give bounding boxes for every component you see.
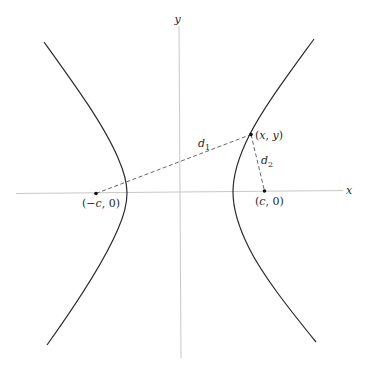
d1-label: d1 xyxy=(198,137,210,152)
left-focus-label: (−c, 0) xyxy=(82,197,120,210)
left-focus-point xyxy=(94,192,98,196)
point-label: (x, y) xyxy=(255,129,283,142)
hyperbola-diagram: y x (x, y) d1 d2 (−c, 0) (c, 0) xyxy=(0,0,365,372)
curve-point xyxy=(249,133,253,137)
d2-label: d2 xyxy=(261,154,273,169)
right-focus-label: (c, 0) xyxy=(255,195,284,208)
right-focus-point xyxy=(263,189,267,193)
distance-d1-line xyxy=(96,135,251,194)
y-axis-label: y xyxy=(174,13,182,26)
x-axis-label: x xyxy=(346,184,353,197)
